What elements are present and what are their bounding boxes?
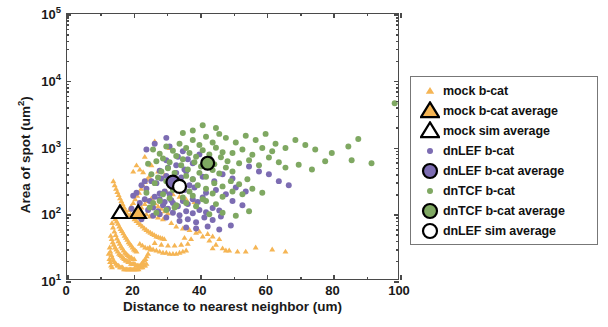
data-point (246, 157, 252, 163)
x-tick-top-minor (300, 13, 302, 16)
legend-item-1[interactable]: mock b-cat average (411, 101, 597, 121)
legend-item-3[interactable]: dnLEF b-cat (411, 141, 597, 161)
x-tick-top-major (400, 13, 402, 18)
data-point (110, 178, 116, 183)
legend-item-4[interactable]: dnLEF b-cat average (411, 161, 597, 181)
y-tick-right-minor (396, 162, 399, 164)
data-point (183, 200, 189, 206)
data-point (213, 201, 219, 207)
data-point (185, 216, 191, 222)
legend-marker-circle-icon (417, 161, 443, 181)
x-tick-label: 0 (62, 283, 69, 298)
data-point (220, 194, 226, 200)
data-point (220, 183, 226, 189)
y-tick-right-minor (396, 151, 399, 153)
data-point (190, 127, 196, 133)
data-point (152, 180, 158, 186)
data-point (292, 137, 298, 143)
data-point (167, 195, 173, 201)
data-point (163, 144, 169, 150)
data-point (108, 233, 114, 238)
legend-item-5[interactable]: dnTCF b-cat (411, 181, 597, 201)
x-tick-label: 80 (325, 283, 339, 298)
y-axis-title: Area of spot (um2) (15, 45, 33, 265)
y-tick-major (66, 214, 71, 216)
data-point (253, 137, 259, 143)
average-marker-dnTCF_avg (201, 157, 214, 170)
data-point (312, 147, 318, 153)
y-tick-minor (66, 151, 69, 153)
data-point (158, 242, 164, 247)
legend-label: dnLEF b-cat (443, 144, 514, 158)
legend-item-7[interactable]: dnLEF sim average (411, 221, 597, 241)
data-point (302, 142, 308, 148)
data-point (168, 220, 174, 225)
data-point (137, 167, 143, 172)
data-point (239, 147, 245, 153)
data-point (263, 131, 269, 137)
x-tick-label: 60 (259, 283, 273, 298)
x-tick-minor (300, 277, 302, 280)
y-tick-right-major (394, 81, 399, 83)
data-point (206, 238, 212, 243)
data-point (230, 150, 236, 156)
data-point (165, 243, 171, 248)
data-point (173, 224, 179, 229)
y-tick-right-minor (396, 154, 399, 156)
y-tick-exponent: 2 (56, 205, 61, 216)
y-axis-title-base: Area of spot (um (18, 106, 33, 213)
data-points-canvas (67, 14, 398, 279)
legend-item-0[interactable]: mock b-cat (411, 81, 597, 101)
y-tick-minor (66, 174, 69, 176)
data-point (256, 168, 262, 174)
data-point (345, 144, 351, 150)
data-point (253, 245, 259, 250)
y-tick-right-minor (396, 174, 399, 176)
data-point (286, 182, 292, 188)
y-tick-minor (66, 101, 69, 103)
legend-item-6[interactable]: dnTCF b-cat average (411, 201, 597, 221)
data-point (246, 163, 252, 169)
data-point (180, 156, 186, 162)
data-point (193, 203, 199, 209)
data-point (266, 155, 272, 161)
y-tick-minor (66, 225, 69, 227)
y-tick-right-minor (396, 225, 399, 227)
y-tick-label: 102 (41, 205, 61, 222)
data-point (183, 173, 189, 179)
legend-marker-triangle-icon (417, 81, 443, 101)
data-point (112, 182, 118, 187)
data-point (143, 190, 149, 196)
data-point (244, 176, 250, 182)
data-point (216, 226, 222, 232)
legend-item-2[interactable]: mock sim average (411, 121, 597, 141)
data-point (210, 217, 216, 223)
data-point (193, 225, 199, 231)
data-point (211, 180, 217, 186)
data-point (160, 155, 166, 161)
chart-legend: mock b-catmock b-cat averagemock sim ave… (410, 76, 598, 245)
y-tick-minor (66, 20, 69, 22)
y-tick-minor (66, 182, 69, 184)
x-tick-top-minor (100, 13, 102, 16)
x-tick-major (67, 275, 69, 280)
data-point (213, 125, 219, 131)
data-point (200, 234, 206, 239)
x-tick-minor (167, 277, 169, 280)
data-point (225, 158, 231, 164)
data-point (201, 214, 207, 220)
data-point (355, 136, 361, 142)
data-point (276, 178, 282, 184)
y-tick-minor (66, 217, 69, 219)
data-point (243, 133, 249, 139)
y-tick-minor (66, 168, 69, 170)
data-point (145, 161, 151, 167)
data-point (178, 162, 184, 168)
x-tick-major (333, 275, 335, 280)
y-tick-exponent: 4 (56, 71, 61, 82)
data-point (193, 154, 199, 160)
data-point (165, 165, 171, 171)
scatter-plot-figure: 101102103104105 Area of spot (um2) Dista… (0, 0, 608, 327)
y-tick-right-minor (396, 261, 399, 263)
y-tick-right-minor (396, 84, 399, 86)
